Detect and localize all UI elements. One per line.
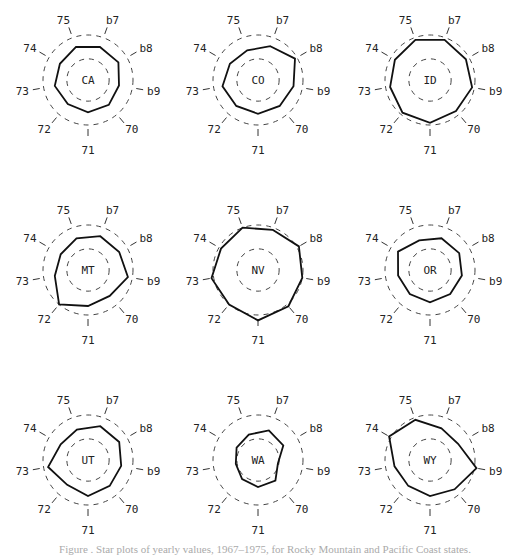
axis-label-67: b7: [276, 14, 289, 27]
axis-label-70: 70: [467, 313, 480, 326]
axis-tick-70: [289, 498, 293, 503]
axis-tick-68: [300, 432, 306, 436]
axis-label-70: 70: [295, 503, 308, 516]
axis-tick-70: [289, 308, 293, 313]
axis-tick-67: [447, 217, 449, 224]
figure-caption: Figure . Star plots of yearly values, 19…: [0, 543, 530, 555]
axis-tick-67: [275, 217, 277, 224]
axis-label-69: b9: [147, 465, 160, 478]
axis-tick-72: [394, 118, 398, 123]
axis-tick-70: [461, 498, 465, 503]
axis-tick-69: [136, 279, 143, 280]
axis-tick-74: [210, 242, 216, 246]
star-panel-mt: b7b8b9707172737475MT: [16, 204, 161, 347]
axis-tick-75: [239, 407, 241, 414]
axis-tick-70: [461, 308, 465, 313]
axis-label-73: 73: [16, 275, 29, 288]
axis-label-68: b8: [309, 42, 322, 55]
axis-tick-73: [375, 89, 382, 90]
star-panel-id: b7b8b9707172737475ID: [358, 14, 503, 157]
axis-tick-72: [52, 118, 56, 123]
axis-label-73: 73: [186, 465, 199, 478]
axis-label-67: b7: [106, 14, 119, 27]
axis-tick-75: [239, 217, 241, 224]
axis-tick-74: [210, 52, 216, 56]
axis-label-71: 71: [81, 144, 94, 157]
star-panel-ca: b7b8b9707172737475CA: [16, 14, 161, 157]
state-label: WY: [423, 454, 437, 467]
axis-label-74: 74: [23, 232, 37, 245]
axis-tick-75: [411, 217, 413, 224]
axis-label-71: 71: [423, 144, 436, 157]
axis-label-72: 72: [208, 313, 221, 326]
axis-tick-74: [40, 52, 46, 56]
axis-label-68: b8: [309, 422, 322, 435]
axis-label-68: b8: [481, 232, 494, 245]
axis-tick-75: [69, 407, 71, 414]
axis-tick-75: [69, 217, 71, 224]
axis-label-69: b9: [317, 465, 330, 478]
axis-label-67: b7: [106, 204, 119, 217]
axis-label-73: 73: [16, 465, 29, 478]
state-label: UT: [81, 454, 95, 467]
axis-tick-67: [275, 27, 277, 34]
axis-label-74: 74: [193, 422, 207, 435]
axis-tick-75: [411, 407, 413, 414]
axis-label-69: b9: [317, 275, 330, 288]
axis-label-70: 70: [295, 123, 308, 136]
axis-label-67: b7: [448, 204, 461, 217]
star-panel-or: b7b8b9707172737475OR: [358, 204, 503, 347]
axis-label-75: 75: [227, 204, 240, 217]
axis-label-74: 74: [365, 42, 379, 55]
axis-tick-70: [461, 118, 465, 123]
axis-label-72: 72: [208, 123, 221, 136]
axis-label-75: 75: [227, 394, 240, 407]
star-panel-wy: b7b8b9707172737475WY: [358, 394, 503, 537]
axis-label-75: 75: [399, 394, 412, 407]
state-label: NV: [251, 264, 265, 277]
axis-label-71: 71: [81, 334, 94, 347]
axis-tick-74: [40, 242, 46, 246]
axis-tick-70: [289, 118, 293, 123]
axis-label-68: b8: [139, 232, 152, 245]
axis-label-74: 74: [193, 232, 207, 245]
axis-tick-75: [69, 27, 71, 34]
axis-tick-69: [136, 469, 143, 470]
axis-label-68: b8: [481, 42, 494, 55]
axis-label-67: b7: [106, 394, 119, 407]
axis-label-73: 73: [358, 465, 371, 478]
axis-label-71: 71: [251, 144, 264, 157]
axis-label-71: 71: [423, 524, 436, 537]
axis-tick-74: [210, 432, 216, 436]
axis-tick-67: [275, 407, 277, 414]
axis-tick-75: [411, 27, 413, 34]
axis-tick-69: [306, 89, 313, 90]
state-label: CO: [251, 74, 264, 87]
state-label: OR: [423, 264, 437, 277]
axis-tick-68: [472, 52, 478, 56]
axis-label-74: 74: [23, 422, 37, 435]
axis-tick-73: [33, 279, 40, 280]
axis-label-68: b8: [309, 232, 322, 245]
axis-label-75: 75: [399, 14, 412, 27]
axis-label-73: 73: [186, 85, 199, 98]
axis-label-67: b7: [448, 394, 461, 407]
star-panel-wa: b7b8b9707172737475WA: [186, 394, 331, 537]
axis-label-75: 75: [57, 14, 70, 27]
axis-label-71: 71: [423, 334, 436, 347]
axis-tick-68: [300, 242, 306, 246]
axis-label-67: b7: [276, 394, 289, 407]
axis-tick-72: [222, 308, 226, 313]
axis-label-70: 70: [125, 503, 138, 516]
axis-label-72: 72: [208, 503, 221, 516]
axis-tick-73: [33, 89, 40, 90]
axis-tick-72: [52, 308, 56, 313]
axis-tick-68: [472, 242, 478, 246]
state-label: CA: [81, 74, 95, 87]
axis-tick-74: [40, 432, 46, 436]
axis-label-73: 73: [358, 85, 371, 98]
axis-label-74: 74: [365, 422, 379, 435]
axis-label-71: 71: [81, 524, 94, 537]
axis-label-73: 73: [186, 275, 199, 288]
axis-label-68: b8: [139, 42, 152, 55]
